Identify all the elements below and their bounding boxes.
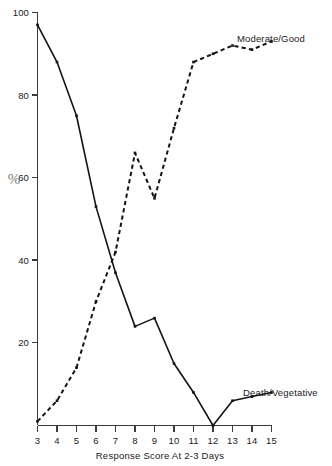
x-axis-title: Response Score At 2-3 Days — [96, 450, 224, 461]
data-point-marker — [231, 44, 234, 47]
x-axis-ticks — [38, 426, 272, 432]
data-point-marker — [36, 24, 39, 27]
data-point-marker — [212, 424, 215, 427]
x-tick-label-4: 4 — [54, 435, 59, 446]
x-tick-label-3: 3 — [35, 435, 40, 446]
data-point-marker — [134, 152, 137, 155]
x-tick-label-13: 13 — [227, 435, 238, 446]
line-chart-svg: 100 80 60 40 20 % 3 4 5 6 7 8 9 — [0, 0, 332, 466]
x-tick-label-15: 15 — [266, 435, 277, 446]
y-axis-ticks — [32, 13, 38, 343]
series-label-death-vegetative: Death/Vegetative — [243, 387, 318, 398]
y-tick-label-100: 100 — [13, 7, 29, 18]
data-point-marker — [192, 61, 195, 64]
y-tick-label-20: 20 — [18, 337, 29, 348]
x-tick-label-5: 5 — [74, 435, 79, 446]
y-tick-label-80: 80 — [18, 90, 29, 101]
x-tick-label-11: 11 — [188, 435, 198, 446]
data-point-marker — [134, 325, 137, 328]
x-tick-label-6: 6 — [93, 435, 98, 446]
x-tick-label-12: 12 — [208, 435, 219, 446]
series-markers-death-vegetative — [36, 24, 273, 427]
data-point-marker — [153, 197, 156, 200]
data-point-marker — [212, 53, 215, 56]
data-point-marker — [173, 362, 176, 365]
data-point-marker — [173, 127, 176, 130]
x-tick-label-10: 10 — [169, 435, 180, 446]
data-point-marker — [114, 271, 117, 274]
data-point-marker — [114, 251, 117, 254]
series-label-moderate-good: Moderate/Good — [237, 33, 305, 44]
data-point-marker — [231, 399, 234, 402]
x-tick-label-14: 14 — [247, 435, 258, 446]
y-axis-title: % — [8, 171, 21, 187]
data-point-marker — [95, 300, 98, 303]
series-path-moderate-good — [38, 41, 272, 421]
data-point-marker — [56, 61, 59, 64]
data-point-marker — [56, 399, 59, 402]
x-tick-label-8: 8 — [132, 435, 137, 446]
data-point-marker — [75, 366, 78, 369]
data-point-marker — [251, 48, 254, 51]
chart-container: 100 80 60 40 20 % 3 4 5 6 7 8 9 — [0, 0, 332, 466]
data-point-marker — [192, 391, 195, 394]
data-point-marker — [75, 114, 78, 117]
series-markers-moderate-good — [36, 40, 273, 423]
x-tick-label-9: 9 — [152, 435, 157, 446]
data-point-marker — [95, 205, 98, 208]
x-tick-label-7: 7 — [113, 435, 118, 446]
series-path-death-vegetative — [38, 25, 272, 426]
data-point-marker — [153, 317, 156, 320]
data-point-marker — [36, 420, 39, 423]
y-tick-label-40: 40 — [18, 255, 29, 266]
